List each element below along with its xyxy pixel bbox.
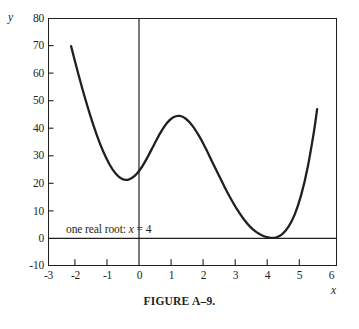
y-tick-label-70: 70 [14,40,44,51]
y-axis-label: y [8,11,13,23]
x-tick-label-neg1: -1 [93,270,122,281]
y-tick-label-30: 30 [14,150,44,161]
x-tick-label-0: 0 [125,270,154,281]
y-tick-label-10: 10 [14,206,44,217]
y-tick-label-20: 20 [14,178,44,189]
x-tick-label-2: 2 [189,270,218,281]
x-tick-label-1: 1 [157,270,186,281]
y-tick-label-80: 80 [14,13,44,24]
figure-container: y x 80 70 60 50 40 30 20 10 0 -10 -3 -2 … [0,0,359,329]
y-tick-label-50: 50 [14,95,44,106]
annotation-suffix: = 4 [137,223,152,235]
x-tick-label-3: 3 [221,270,250,281]
x-tick-label-4: 4 [253,270,282,281]
y-tick-label-40: 40 [14,123,44,134]
x-axis-ticks [75,259,299,265]
x-tick-label-6: 6 [317,270,346,281]
x-tick-label-neg3: -3 [34,270,63,281]
y-tick-label-0: 0 [14,233,44,244]
x-tick-label-5: 5 [285,270,314,281]
annotation-prefix: one real root: [66,223,126,235]
figure-caption: FIGURE A–9. [0,295,359,307]
root-annotation: one real root: x = 4 [66,223,151,235]
curve-fx [71,46,317,238]
y-tick-label-60: 60 [14,68,44,79]
x-tick-label-neg2: -2 [61,270,90,281]
y-axis-ticks [48,46,54,211]
